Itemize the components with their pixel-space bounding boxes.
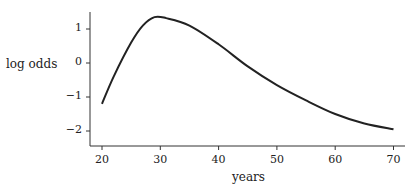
y-tick-label: 0 (75, 55, 82, 68)
x-tick-label: 70 (387, 153, 401, 166)
y-tick-label: −2 (66, 123, 82, 136)
x-tick-label: 60 (328, 153, 342, 166)
x-tick-label: 30 (153, 153, 167, 166)
y-axis-label: log odds (6, 57, 57, 71)
y-tick-label: 1 (75, 21, 82, 34)
x-tick-label: 40 (212, 153, 226, 166)
x-tick-label: 20 (95, 153, 109, 166)
x-axis-label: years (232, 170, 265, 184)
y-tick-label: −1 (66, 89, 82, 102)
chart-plot (0, 0, 417, 189)
x-tick-label: 50 (270, 153, 284, 166)
data-line (102, 16, 394, 129)
